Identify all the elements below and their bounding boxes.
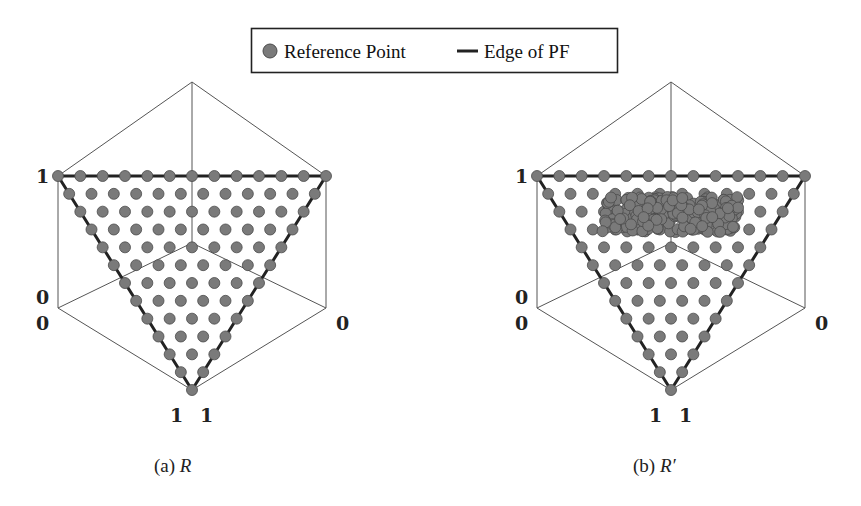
tick-label-left-upper: 0 (515, 286, 528, 308)
reference-point-cluster (597, 192, 744, 238)
tick-label-left-upper: 0 (36, 286, 49, 308)
tick-label-bottom-left: 1 (649, 404, 662, 426)
tick-label-right: 0 (815, 312, 828, 334)
tick-label-left-lower: 0 (36, 312, 49, 334)
panel-caption: (b) R′ (633, 455, 677, 477)
tick-label-bottom-right: 1 (679, 404, 692, 426)
tick-label-left-lower: 0 (515, 312, 528, 334)
tick-label-bottom-left: 1 (170, 404, 183, 426)
tick-label-right: 0 (336, 312, 349, 334)
figure-canvas: Reference PointEdge of PF100011(a) R1000… (0, 0, 861, 506)
tick-label-top-left: 1 (36, 165, 49, 187)
panel-b: 100011(b) R′ (515, 82, 828, 477)
legend-label-edge-of-pf: Edge of PF (484, 41, 570, 62)
legend: Reference PointEdge of PF (252, 29, 618, 73)
tick-label-top-left: 1 (515, 165, 528, 187)
panel-a: 100011(a) R (36, 82, 349, 477)
tick-label-bottom-right: 1 (200, 404, 213, 426)
legend-label-reference-point: Reference Point (284, 41, 407, 62)
panel-caption: (a) R (154, 455, 192, 477)
reference-point-marker-icon (263, 44, 277, 58)
